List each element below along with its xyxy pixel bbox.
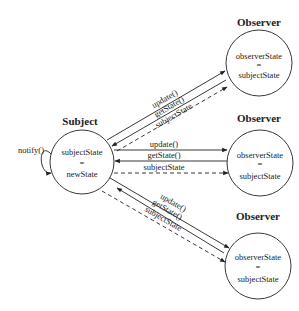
observer-3-state-line1: observerState — [235, 252, 281, 262]
observer-2-state-line2: subjectState — [239, 171, 280, 181]
subject-state-line1: subjectState — [61, 147, 102, 157]
observer-1-state-eq: = — [257, 60, 262, 70]
observer-2-title: Observer — [237, 112, 281, 124]
subject-state-line2: newState — [66, 169, 97, 179]
subject-node: Subject subjectState = newState — [50, 115, 114, 194]
observer-3-state-line2: subjectState — [237, 274, 278, 284]
getstate-label-2: getState() — [147, 150, 180, 160]
update-label-2: update() — [150, 139, 178, 149]
observer-2-state-eq: = — [258, 159, 263, 169]
observer-pattern-diagram: notify() Subject subjectState = newState… — [0, 0, 299, 311]
observer-node-2: Observer observerState = subjectState — [227, 112, 293, 196]
messages-observer-3: update() getState() subjectState — [102, 178, 229, 262]
observer-3-state-eq: = — [256, 262, 261, 272]
observer-3-title: Observer — [236, 210, 280, 222]
observer-1-state-line2: subjectState — [238, 70, 279, 80]
notify-self-loop: notify() — [18, 145, 51, 173]
subject-title: Subject — [62, 115, 98, 127]
notify-label: notify() — [18, 145, 44, 155]
observer-node-1: Observer observerState = subjectState — [226, 16, 292, 96]
observer-1-title: Observer — [237, 16, 281, 28]
messages-observer-2: update() getState() subjectState — [114, 139, 228, 173]
observer-node-3: Observer observerState = subjectState — [225, 210, 291, 299]
subject-state-eq: = — [80, 158, 85, 168]
subjectstate-label-2: subjectState — [143, 162, 184, 172]
